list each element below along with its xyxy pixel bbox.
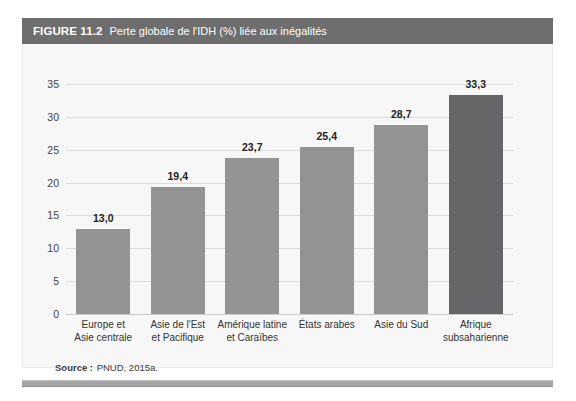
bar-value-label: 33,3 xyxy=(439,78,514,90)
y-axis: 05101520253035 xyxy=(23,84,59,314)
figure-number: FIGURE 11.2 xyxy=(33,25,103,37)
y-tick-label-25: 25 xyxy=(29,144,59,156)
category-label-line: Asie de l'Est xyxy=(141,318,216,331)
category-label: États arabes xyxy=(290,318,365,331)
bar-value-label: 28,7 xyxy=(364,108,439,120)
category-label: Asie du Sud xyxy=(364,318,439,331)
figure-container: FIGURE 11.2 Perte globale de l'IDH (%) l… xyxy=(22,18,553,368)
bar-value-label: 25,4 xyxy=(290,130,365,142)
category-label-line: Asie du Sud xyxy=(364,318,439,331)
y-tick-label-20: 20 xyxy=(29,177,59,189)
bar[interactable] xyxy=(151,187,205,314)
y-tick-label-0: 0 xyxy=(29,308,59,320)
y-tick-label-10: 10 xyxy=(29,242,59,254)
bar[interactable] xyxy=(449,95,503,314)
figure-title-bar: FIGURE 11.2 Perte globale de l'IDH (%) l… xyxy=(22,18,553,44)
category-label-line: Amérique latine xyxy=(215,318,290,331)
y-tick-label-30: 30 xyxy=(29,111,59,123)
bar[interactable] xyxy=(76,229,130,314)
gridline-0 xyxy=(66,314,513,315)
category-label: Afriquesubsaharienne xyxy=(439,318,514,344)
bar-value-label: 23,7 xyxy=(215,141,290,153)
category-label: Asie de l'Estet Pacifique xyxy=(141,318,216,344)
bar-value-label: 13,0 xyxy=(66,212,141,224)
bottom-rule-divider xyxy=(22,380,553,387)
source-text: PNUD, 2015a. xyxy=(97,362,158,373)
bar[interactable] xyxy=(374,125,428,314)
figure-caption: Perte globale de l'IDH (%) liée aux inég… xyxy=(110,25,327,37)
category-label: Amérique latineet Caraïbes xyxy=(215,318,290,344)
chart-plot-area: 05101520253035 13,019,423,725,428,733,3 … xyxy=(22,44,553,368)
category-label: Europe etAsie centrale xyxy=(66,318,141,344)
category-label-line: Asie centrale xyxy=(66,331,141,344)
y-tick-label-5: 5 xyxy=(29,275,59,287)
x-axis-category-labels: Europe etAsie centraleAsie de l'Estet Pa… xyxy=(66,318,513,358)
category-label-line: et Pacifique xyxy=(141,331,216,344)
source-label: Source : xyxy=(55,362,93,373)
y-tick-label-35: 35 xyxy=(29,78,59,90)
category-label-line: subsaharienne xyxy=(439,331,514,344)
bars-layer: 13,019,423,725,428,733,3 xyxy=(66,84,513,314)
bar-value-label: 19,4 xyxy=(141,170,216,182)
y-tick-label-15: 15 xyxy=(29,209,59,221)
source-line: Source : PNUD, 2015a. xyxy=(55,362,158,373)
category-label-line: Europe et xyxy=(66,318,141,331)
bar[interactable] xyxy=(225,158,279,314)
category-label-line: Afrique xyxy=(439,318,514,331)
category-label-line: et Caraïbes xyxy=(215,331,290,344)
category-label-line: États arabes xyxy=(290,318,365,331)
bar[interactable] xyxy=(300,147,354,314)
